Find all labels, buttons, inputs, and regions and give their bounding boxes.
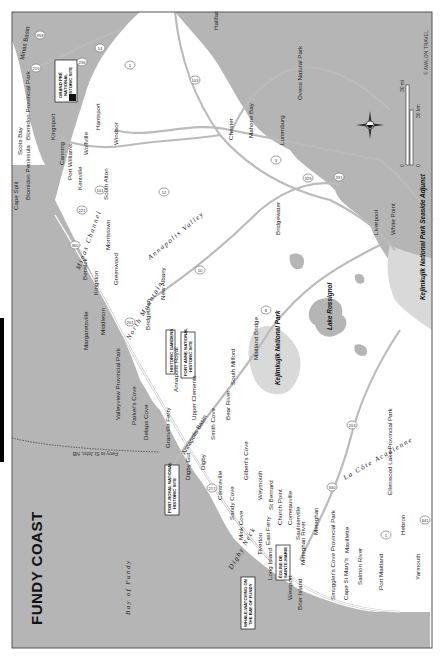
svg-text:Margaretsville: Margaretsville <box>82 311 89 350</box>
svg-text:Chester: Chester <box>227 118 234 140</box>
svg-text:221: 221 <box>79 208 87 213</box>
svg-text:14: 14 <box>98 46 103 51</box>
callout-eglise[interactable]: ÉGLISE DE SAINTE-MARIE <box>276 545 290 580</box>
svg-text:341: 341 <box>422 518 430 523</box>
svg-text:236: 236 <box>79 60 87 65</box>
svg-text:SAINTE-MARIE: SAINTE-MARIE <box>283 547 288 578</box>
park-kejimkujik: Kejimkujik National Park <box>274 310 282 385</box>
svg-text:Blomidon Peninsula: Blomidon Peninsula <box>24 145 31 200</box>
callout-whale-watching[interactable]: WHALE-WATCHING ON THE BAY OF FUNDY <box>241 577 255 629</box>
park-ovens: Ovens Natural Park <box>296 45 303 100</box>
svg-text:Delaps Cove: Delaps Cove <box>142 404 149 440</box>
svg-text:Bridgewater: Bridgewater <box>274 202 281 235</box>
svg-text:201: 201 <box>127 320 135 325</box>
svg-text:Greenwood: Greenwood <box>112 252 119 285</box>
svg-text:Kingston: Kingston <box>92 270 99 295</box>
svg-text:Meteghan: Meteghan <box>312 507 319 535</box>
fundy-coast-map: FUNDY COAST Bay of Fundy Minas Channel M… <box>0 0 444 656</box>
park-smugglers-cove: Smuggler's Cove Provincial Park <box>329 509 336 600</box>
svg-text:Liverpool: Liverpool <box>372 210 379 235</box>
svg-text:0: 0 <box>399 164 405 167</box>
svg-text:Upper Clements: Upper Clements <box>190 375 197 420</box>
ferry-label: Ferry to St John, NB <box>72 451 118 457</box>
svg-text:East Ferry: East Ferry <box>264 516 271 545</box>
svg-text:103: 103 <box>192 78 200 83</box>
svg-text:South Milford: South Milford <box>229 348 236 385</box>
svg-text:Church Point: Church Point <box>276 489 283 525</box>
lake-rossignol-label: Lake Rossignol <box>326 283 334 330</box>
svg-text:325: 325 <box>305 176 313 181</box>
callout-grand-pre[interactable]: GRAND PRÉ NATIONAL HISTORIC SITE <box>55 60 77 102</box>
svg-text:Meteghan River: Meteghan River <box>299 521 306 565</box>
credit-label: © AVALON TRAVEL <box>423 30 429 75</box>
svg-text:Annapolis Royal: Annapolis Royal <box>172 347 179 392</box>
svg-text:Weymouth: Weymouth <box>256 470 263 500</box>
svg-text:360: 360 <box>72 243 80 248</box>
bay-of-fundy-label: Bay of Fundy <box>124 559 132 615</box>
svg-text:10: 10 <box>198 268 203 273</box>
svg-text:215: 215 <box>33 66 41 71</box>
svg-text:White Point: White Point <box>389 203 396 235</box>
svg-text:Digby: Digby <box>199 453 206 470</box>
svg-text:Middleton: Middleton <box>99 308 106 335</box>
svg-text:Port Maitland: Port Maitland <box>377 553 384 590</box>
svg-text:Port Williams: Port Williams <box>66 144 73 180</box>
svg-text:Mahone Bay: Mahone Bay <box>247 102 254 138</box>
svg-text:Windsor: Windsor <box>112 122 119 145</box>
svg-text:Westport: Westport <box>286 575 293 600</box>
svg-text:Maitland Bridge: Maitland Bridge <box>252 316 259 360</box>
svg-text:Smith Cove: Smith Cove <box>209 407 216 440</box>
svg-text:Gilbert's Cove: Gilbert's Cove <box>242 441 249 480</box>
svg-text:Brier Island: Brier Island <box>296 578 303 610</box>
svg-text:Cape Split: Cape Split <box>12 181 19 210</box>
svg-text:331: 331 <box>336 175 344 180</box>
park-ellenwood: Ellenwood Lake Provincial Park <box>386 407 393 495</box>
svg-text:Centreville: Centreville <box>216 470 223 500</box>
svg-text:30 mi: 30 mi <box>399 80 405 92</box>
map-title: FUNDY COAST <box>28 511 45 625</box>
svg-text:0: 0 <box>415 164 421 167</box>
svg-text:Tiverton: Tiverton <box>256 532 263 555</box>
svg-text:30 km: 30 km <box>415 104 421 118</box>
svg-text:Salmon River: Salmon River <box>356 548 363 585</box>
svg-text:Comeauville: Comeauville <box>286 490 293 525</box>
svg-text:101: 101 <box>97 188 105 193</box>
svg-text:New Albany: New Albany <box>159 266 166 300</box>
svg-text:Mavillette: Mavillette <box>343 526 350 553</box>
svg-text:HISTORIC SITE: HISTORIC SITE <box>172 478 177 509</box>
svg-text:St Bernard: St Bernard <box>267 480 274 510</box>
svg-text:Mink Cove: Mink Cove <box>237 510 244 540</box>
park-blomidon: Blomidon Provincial Park <box>24 70 31 140</box>
svg-text:358: 358 <box>37 33 45 38</box>
svg-text:Hantsport: Hantsport <box>94 103 101 130</box>
svg-text:Yarmouth: Yarmouth <box>414 553 421 580</box>
callout-port-royal[interactable]: PORT-ROYAL NATIONAL HISTORIC SITE <box>165 462 179 515</box>
svg-text:HISTORIC SITE: HISTORIC SITE <box>68 67 73 98</box>
park-valleyview: Valleyview Provincial Park <box>114 347 121 420</box>
svg-text:THE BAY OF FUNDY: THE BAY OF FUNDY <box>248 583 253 625</box>
svg-text:Wolfville: Wolfville <box>82 132 89 155</box>
svg-text:Cape St Mary's: Cape St Mary's <box>342 558 349 600</box>
svg-text:Kingsport: Kingsport <box>49 114 56 140</box>
svg-text:South Alton: South Alton <box>102 168 109 200</box>
svg-text:Berwick: Berwick <box>81 257 88 280</box>
svg-text:12: 12 <box>162 190 167 195</box>
svg-text:Digby Gut: Digby Gut <box>184 452 191 480</box>
svg-text:Long Island: Long Island <box>266 547 273 580</box>
svg-text:Halifax: Halifax <box>212 10 219 30</box>
svg-text:Sandy Cove: Sandy Cove <box>228 486 235 520</box>
svg-text:Scots Bay: Scots Bay <box>16 126 23 155</box>
svg-text:Parker's Cove: Parker's Cove <box>130 386 137 425</box>
svg-text:HISTORIC SITE: HISTORIC SITE <box>188 341 193 372</box>
svg-text:Bridgetown: Bridgetown <box>144 298 151 330</box>
svg-text:Hebron: Hebron <box>399 514 406 535</box>
svg-text:Morristown: Morristown <box>104 219 111 250</box>
svg-text:Lunenburg: Lunenburg <box>278 115 285 145</box>
park-kejimkujik-seaside: Kejimkujik National Park Seaside Adjunct <box>419 173 427 300</box>
svg-text:340: 340 <box>329 485 337 490</box>
svg-text:Bear River: Bear River <box>224 391 231 420</box>
svg-text:217: 217 <box>209 486 217 491</box>
chapter-tab <box>0 318 4 462</box>
callout-fort-anne[interactable]: FORT ANNE NATIONAL HISTORIC SITE <box>181 328 195 378</box>
svg-text:203: 203 <box>349 423 357 428</box>
